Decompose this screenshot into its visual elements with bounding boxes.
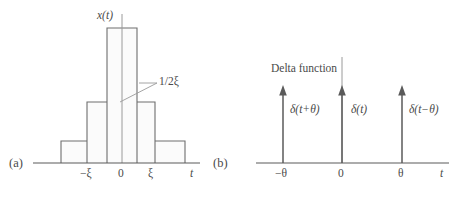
panel-a-signal-label: x(t) <box>97 10 113 22</box>
amplitude-annotation: 1/2ξ <box>159 76 179 88</box>
panel-b-tick-neg-theta: −θ <box>275 168 287 180</box>
figure-root: x(t) 1/2ξ (a) −ξ 0 ξ t (b) Delta functio… <box>0 0 456 205</box>
panel-a-tick-pos-xi: ξ <box>148 168 153 180</box>
impulse-arrow-center <box>338 85 346 163</box>
panel-a-tag: (a) <box>9 157 23 170</box>
impulse-arrow-left <box>279 85 287 163</box>
impulse-label-left: δ(t+θ) <box>290 104 320 116</box>
panel-b-axis-x-label: t <box>440 168 443 180</box>
panel-b-tick-pos-theta: θ <box>398 168 404 180</box>
panel-b-tag: (b) <box>213 157 228 170</box>
impulse-arrow-right <box>398 85 406 163</box>
impulse-label-right: δ(t−θ) <box>409 104 439 116</box>
panel-a-tick-zero: 0 <box>118 168 124 180</box>
panel-a-graphics <box>0 0 456 205</box>
panel-a-tick-neg-xi: −ξ <box>80 168 92 180</box>
panel-a-axis-x-label: t <box>190 168 193 180</box>
delta-function-title: Delta function <box>271 63 337 75</box>
impulse-label-center: δ(t) <box>351 104 367 116</box>
panel-b-tick-zero: 0 <box>338 168 344 180</box>
